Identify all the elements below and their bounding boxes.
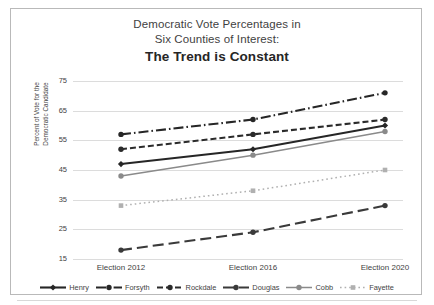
legend-key-forsyth-icon	[96, 283, 122, 292]
legend-item-rockdale[interactable]: Rockdale	[157, 283, 217, 292]
legend-item-cobb[interactable]: Cobb	[286, 283, 333, 292]
chart-container: Democratic Vote Percentages in Six Count…	[10, 8, 422, 295]
legend-label-forsyth: Forsyth	[125, 283, 150, 292]
chart-title-line-2: Six Counties of Interest:	[11, 32, 423, 47]
data-point-henry-2	[382, 122, 388, 128]
y-axis-tick-label: 45	[27, 165, 67, 174]
series-line-fayette	[121, 170, 385, 206]
data-point-henry-1	[250, 146, 256, 152]
chart-legend: HenryForsythRockdaleDouglasCobbFayette	[19, 279, 415, 295]
legend-label-fayette: Fayette	[369, 283, 394, 292]
y-axis-tick-label: 65	[27, 106, 67, 115]
data-point-henry-0	[118, 161, 124, 167]
y-axis-tick-label: 25	[27, 224, 67, 233]
data-point-fayette-1	[251, 188, 256, 193]
data-point-cobb-1	[250, 152, 255, 157]
data-point-rockdale-0	[118, 147, 123, 152]
data-point-forsyth-0	[118, 132, 123, 137]
legend-label-cobb: Cobb	[315, 283, 333, 292]
series-line-douglas	[121, 206, 385, 251]
chart-title: Democratic Vote Percentages in Six Count…	[11, 17, 423, 66]
chart-title-line-1: Democratic Vote Percentages in	[11, 17, 423, 32]
legend-key-fayette-icon	[340, 283, 366, 292]
legend-key-cobb-icon	[286, 283, 312, 292]
y-axis-tick-label: 35	[27, 195, 67, 204]
legend-key-rockdale-icon	[157, 283, 183, 292]
legend-label-rockdale: Rockdale	[186, 283, 217, 292]
data-point-forsyth-1	[250, 117, 255, 122]
legend-divider	[17, 300, 417, 301]
y-axis-tick-label: 55	[27, 135, 67, 144]
x-axis-tick-label: Election 2012	[97, 263, 145, 272]
data-point-cobb-2	[382, 129, 387, 134]
plot-area: 75655545352515	[73, 81, 403, 259]
chart-title-line-3: The Trend is Constant	[11, 47, 423, 66]
legend-item-fayette[interactable]: Fayette	[340, 283, 394, 292]
x-axis-tick-label: Election 2016	[229, 263, 277, 272]
data-point-douglas-2	[382, 203, 387, 208]
series-line-forsyth	[121, 93, 385, 135]
gridline	[73, 259, 403, 260]
legend-item-henry[interactable]: Henry	[40, 283, 89, 292]
data-point-fayette-2	[383, 168, 388, 173]
data-point-rockdale-1	[250, 132, 255, 137]
y-axis-tick-label: 15	[27, 254, 67, 263]
legend-label-henry: Henry	[69, 283, 89, 292]
data-point-douglas-0	[118, 247, 123, 252]
x-axis-tick-labels: Election 2012Election 2016Election 2020	[73, 263, 403, 277]
data-point-rockdale-2	[382, 117, 387, 122]
legend-label-douglas: Douglas	[252, 283, 279, 292]
data-point-cobb-0	[118, 173, 123, 178]
data-point-forsyth-2	[382, 90, 387, 95]
data-point-fayette-0	[119, 203, 124, 208]
legend-key-henry-icon	[40, 283, 66, 292]
legend-item-douglas[interactable]: Douglas	[223, 283, 279, 292]
y-axis-tick-label: 75	[27, 76, 67, 85]
data-point-douglas-1	[250, 230, 255, 235]
series-lines	[73, 81, 403, 259]
legend-key-douglas-icon	[223, 283, 249, 292]
x-axis-tick-label: Election 2020	[361, 263, 409, 272]
legend-item-forsyth[interactable]: Forsyth	[96, 283, 150, 292]
